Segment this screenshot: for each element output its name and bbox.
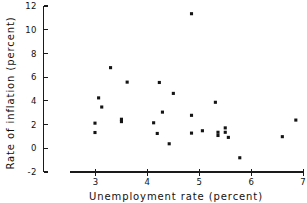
data-point bbox=[120, 120, 123, 123]
data-point bbox=[93, 122, 96, 125]
plot-canvas: -2024681012 34567 Unemployment rate (per… bbox=[0, 0, 307, 203]
x-tick-label: 4 bbox=[145, 177, 151, 187]
y-tick-label: 2 bbox=[31, 120, 37, 130]
data-point bbox=[281, 135, 284, 138]
data-point bbox=[93, 131, 96, 134]
y-axis: -2024681012 bbox=[25, 1, 47, 177]
y-tick-label: 4 bbox=[31, 96, 37, 106]
data-point bbox=[172, 92, 175, 95]
data-point bbox=[190, 132, 193, 135]
data-point bbox=[227, 136, 230, 139]
data-point bbox=[126, 81, 129, 84]
x-tick-label: 6 bbox=[248, 177, 254, 187]
data-point bbox=[156, 132, 159, 135]
x-tick-label: 3 bbox=[93, 177, 99, 187]
data-point bbox=[201, 129, 204, 132]
x-axis-title: Unemployment rate (percent) bbox=[89, 191, 263, 202]
data-point bbox=[190, 114, 193, 117]
data-point bbox=[190, 12, 193, 15]
x-tick-label: 5 bbox=[196, 177, 202, 187]
data-point bbox=[224, 131, 227, 134]
scatter-plot-figure: -2024681012 34567 Unemployment rate (per… bbox=[0, 0, 307, 203]
data-point bbox=[214, 101, 217, 104]
y-tick-label: -2 bbox=[28, 167, 37, 177]
data-point bbox=[161, 111, 164, 114]
data-point bbox=[224, 126, 227, 129]
data-point bbox=[152, 121, 155, 124]
data-point bbox=[109, 66, 112, 69]
x-tick-label: 7 bbox=[300, 177, 306, 187]
y-tick-label: 6 bbox=[31, 72, 37, 82]
data-point bbox=[294, 119, 297, 122]
data-point bbox=[238, 156, 241, 159]
data-point bbox=[168, 142, 171, 145]
data-points-layer bbox=[93, 12, 297, 159]
x-axis: 34567 bbox=[70, 169, 306, 188]
data-point bbox=[158, 81, 161, 84]
y-axis-title: Rate of inflation (percent) bbox=[5, 16, 16, 169]
data-point bbox=[100, 105, 103, 108]
data-point bbox=[216, 134, 219, 137]
y-tick-label: 10 bbox=[25, 25, 36, 35]
data-point bbox=[216, 131, 219, 134]
data-point bbox=[97, 96, 100, 99]
y-tick-label: 0 bbox=[31, 143, 37, 153]
y-tick-label: 12 bbox=[25, 1, 36, 11]
y-tick-label: 8 bbox=[31, 49, 37, 59]
